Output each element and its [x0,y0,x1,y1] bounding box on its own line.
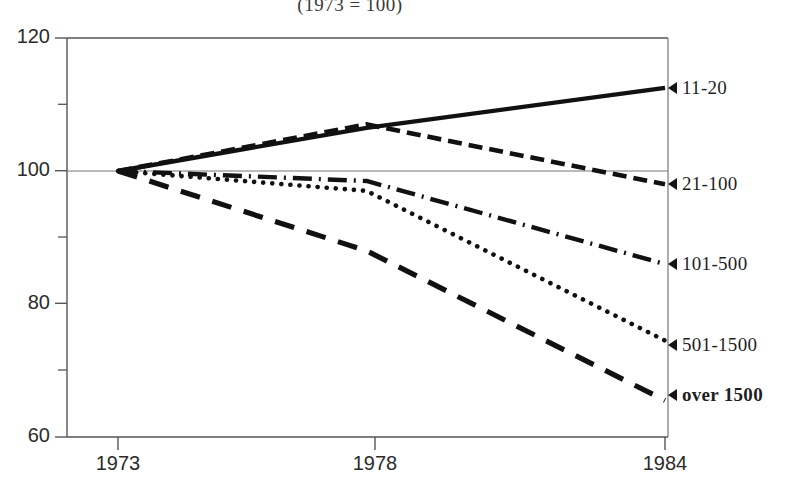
y-axis-label-60: 60 [0,424,50,447]
series-line-101-500 [118,171,665,264]
x-axis-label-1984: 1984 [620,452,710,475]
legend-arrow-icon [668,389,677,401]
legend-label-101-500: 101-500 [682,253,747,275]
chart-container: (1973 = 100) [0,0,811,495]
legend-arrow-icon [668,258,677,270]
y-minor-ticks [58,104,67,370]
y-axis-label-120: 120 [0,25,50,48]
legend-arrow-icon [668,178,677,190]
legend-item-101-500[interactable]: 101-500 [668,253,747,275]
legend-arrow-icon [668,82,677,94]
x-axis-label-1978: 1978 [330,452,420,475]
legend-item-11-20[interactable]: 11-20 [668,77,727,99]
x-ticks [118,437,665,450]
legend-label-over-1500: over 1500 [682,384,763,406]
legend-arrow-icon [668,339,677,351]
y-axis-label-100: 100 [0,158,50,181]
legend-item-21-100[interactable]: 21-100 [668,173,738,195]
x-axis-label-1973: 1973 [73,452,163,475]
legend-label-501-1500: 501-1500 [682,334,757,356]
chart-plot-area [0,0,811,495]
legend-label-11-20: 11-20 [682,77,727,99]
legend-label-21-100: 21-100 [682,173,738,195]
series-line-over-1500 [118,171,665,400]
legend-item-501-1500[interactable]: 501-1500 [668,334,757,356]
legend-item-over-1500[interactable]: over 1500 [668,384,763,406]
y-axis-label-80: 80 [0,291,50,314]
